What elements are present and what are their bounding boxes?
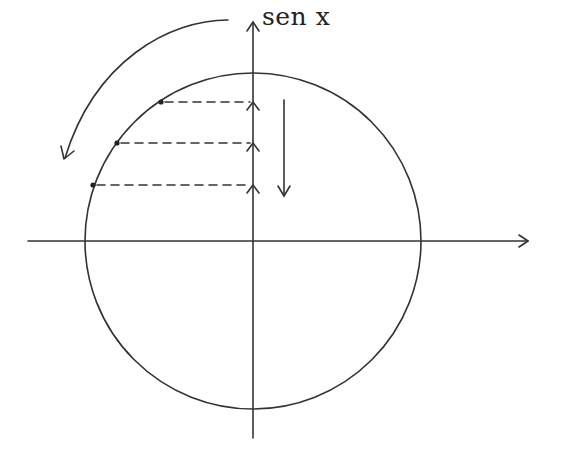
rotation-arrow <box>65 20 228 158</box>
diagram-canvas: sen x <box>0 0 563 467</box>
unit-circle-diagram <box>0 0 563 467</box>
point-3 <box>90 182 95 187</box>
point-1 <box>158 99 163 104</box>
y-axis-label: sen x <box>262 2 330 32</box>
sine-projections <box>97 102 250 185</box>
point-2 <box>114 140 119 145</box>
